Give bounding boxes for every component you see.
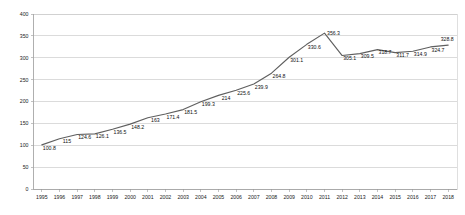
data-point-label: 148.2	[131, 124, 144, 130]
y-axis-tick-label: 50	[23, 164, 29, 170]
y-axis-tick-label: 400	[20, 11, 29, 17]
x-axis-tick-label: 2017	[425, 194, 437, 200]
data-point-label: 324.7	[432, 47, 445, 53]
x-axis-tick-label: 2018	[442, 194, 454, 200]
data-point-label: 124.6	[78, 134, 91, 140]
x-axis-tick-label: 2013	[354, 194, 366, 200]
data-point-label: 199.3	[202, 101, 215, 107]
data-point-label: 225.6	[237, 90, 250, 96]
chart-container: 050100150200250300350400 199519961997199…	[0, 0, 465, 215]
data-point-label: 356.3	[327, 30, 340, 36]
data-point-label: 309.5	[361, 53, 374, 59]
y-axis-tick-label: 300	[20, 55, 29, 61]
data-point-label: 126.1	[96, 133, 109, 139]
data-point-label: 239.9	[255, 84, 268, 90]
x-axis-tick-label: 2010	[301, 194, 313, 200]
x-axis-tick-label: 2015	[389, 194, 401, 200]
x-axis-tick-label: 1995	[36, 194, 48, 200]
data-point-label: 311.7	[396, 52, 409, 58]
x-axis-tick-label: 2003	[177, 194, 189, 200]
x-axis-tick-label: 2014	[372, 194, 384, 200]
x-axis-tick-label: 2009	[283, 194, 295, 200]
x-axis-tick-label: 2012	[336, 194, 348, 200]
data-point-label: 330.6	[308, 44, 321, 50]
data-point-label: 171.4	[167, 114, 180, 120]
y-axis-tick-labels: 050100150200250300350400	[20, 11, 33, 192]
x-axis-tick-label: 2016	[407, 194, 419, 200]
x-axis-tick-label: 1997	[71, 194, 83, 200]
x-axis-tick-label: 2001	[142, 194, 154, 200]
x-axis-tick-label: 1996	[54, 194, 66, 200]
data-point-label: 328.8	[441, 36, 454, 42]
y-axis-tick-label: 150	[20, 120, 29, 126]
data-point-label: 181.5	[184, 109, 197, 115]
data-point-label: 214	[222, 95, 231, 101]
data-point-label: 100.8	[43, 145, 56, 151]
y-axis-tick-label: 200	[20, 98, 29, 104]
y-axis-tick-label: 0	[26, 186, 29, 192]
x-axis-tick-label: 2007	[248, 194, 260, 200]
line-chart: 050100150200250300350400 199519961997199…	[0, 0, 465, 215]
y-axis-tick-label: 350	[20, 33, 29, 39]
x-axis-tick-label: 2004	[195, 194, 207, 200]
data-point-label: 301.1	[290, 57, 303, 63]
data-point-label: 264.8	[273, 73, 286, 79]
data-point-label: 314.9	[414, 51, 427, 57]
data-point-label: 136.5	[114, 129, 127, 135]
x-axis-tick-label: 2011	[319, 194, 330, 200]
data-point-label: 163	[151, 117, 160, 123]
x-axis-tick-label: 2000	[124, 194, 136, 200]
data-point-label: 115	[63, 138, 71, 144]
y-axis-tick-label: 100	[20, 142, 29, 148]
x-axis-tick-label: 1998	[89, 194, 101, 200]
x-axis-tick-labels: 1995199619971998199920002001200220032004…	[36, 189, 454, 200]
x-axis-tick-label: 1999	[107, 194, 119, 200]
data-point-label: 318.7	[379, 49, 392, 55]
x-axis-tick-label: 2008	[266, 194, 278, 200]
data-point-label: 305.1	[343, 55, 356, 61]
x-axis-tick-label: 2005	[213, 194, 225, 200]
y-axis-tick-label: 250	[20, 77, 29, 83]
x-axis-tick-label: 2002	[160, 194, 172, 200]
x-axis-tick-label: 2006	[230, 194, 242, 200]
